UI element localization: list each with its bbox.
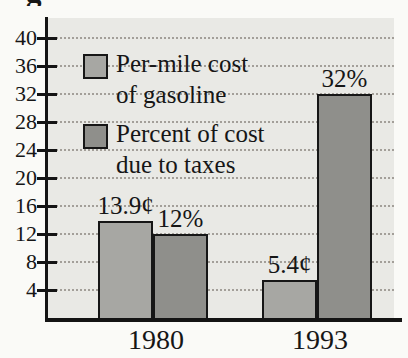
category-label-1980: 1980: [96, 325, 216, 355]
legend-line: due to taxes: [116, 149, 306, 180]
y-tick-label-24: 24: [0, 137, 37, 163]
y-tick-label-40: 40: [0, 25, 37, 51]
percent-swatch: [83, 124, 108, 149]
y-tick-label-4: 4: [0, 277, 37, 303]
gridline-40: [48, 37, 394, 39]
y-tick-label-36: 36: [0, 53, 37, 79]
y-tick-label-20: 20: [0, 165, 37, 191]
category-label-1993: 1993: [260, 325, 380, 355]
legend-label-percent: Percent of cost due to taxes: [116, 118, 306, 180]
y-axis-line: [45, 17, 48, 322]
legend-line: Percent of cost: [116, 118, 306, 149]
y-tick-label-12: 12: [0, 221, 37, 247]
legend-line: of gasoline: [116, 79, 306, 110]
y-tick-label-8: 8: [0, 249, 37, 275]
legend-label-per-mile: Per-mile cost of gasoline: [116, 48, 306, 110]
y-tick-label-32: 32: [0, 81, 37, 107]
x-axis-line: [45, 318, 402, 322]
y-tick-label-16: 16: [0, 193, 37, 219]
legend-line: Per-mile cost: [116, 48, 306, 79]
bar-1993-percent: [317, 94, 372, 320]
bar-1993-per-mile: [262, 280, 317, 320]
bar-label-1980-percent: 12%: [121, 205, 241, 233]
bar-1980-percent: [153, 234, 208, 320]
per-mile-swatch: [83, 54, 108, 79]
cropped-caption-letter: g: [26, 0, 42, 6]
y-tick-label-28: 28: [0, 109, 37, 135]
bar-chart-figure: g 48121620242832364013.9¢12%19805.4¢32%1…: [0, 0, 408, 358]
bar-label-1993-per-mile: 5.4¢: [230, 251, 350, 279]
bar-1980-per-mile: [98, 221, 153, 320]
cropped-caption-fragment: g: [24, 0, 50, 6]
